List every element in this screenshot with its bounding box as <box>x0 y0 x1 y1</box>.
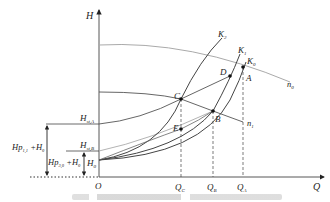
point-d <box>228 74 232 78</box>
pump-curve-n0 <box>99 44 290 82</box>
label-k2: K2 <box>217 29 227 40</box>
tick-qa: QA <box>237 182 248 193</box>
y-axis-label: H <box>85 10 94 21</box>
figure-caption-blurred <box>72 194 282 200</box>
label-hp11: Hp1,1 +H0 <box>11 142 45 154</box>
curve-hsta <box>99 76 230 124</box>
point-b <box>211 109 215 113</box>
point-a <box>241 65 245 69</box>
label-point-d: D <box>219 67 227 77</box>
label-hstb: Hst,B <box>79 140 94 152</box>
label-hsta: Hst,A <box>79 113 95 125</box>
label-point-c: C <box>174 91 181 101</box>
system-curve-k1 <box>99 54 240 160</box>
label-n0: n0 <box>287 79 294 90</box>
curve-hstb <box>99 111 213 151</box>
label-hp30: Hp3,0 +H0 <box>47 157 81 169</box>
label-k0: K0 <box>246 56 256 67</box>
system-curve-k2 <box>99 38 222 160</box>
label-point-b: B <box>215 114 221 124</box>
tick-qb: QB <box>207 182 217 193</box>
label-h0: H0 <box>86 158 97 169</box>
label-n1: n1 <box>247 118 254 129</box>
point-e <box>179 127 183 131</box>
label-k1: K1 <box>237 45 247 56</box>
origin-label: O <box>95 181 102 191</box>
diagram-canvas: H Q O QC QB QA Hst,A Hst,B H0 Hp1,1 +H0 … <box>0 0 330 202</box>
tick-qc: QC <box>175 182 186 193</box>
label-point-a: A <box>245 73 252 83</box>
label-point-e: E <box>172 123 179 133</box>
x-axis-label: Q <box>313 181 321 192</box>
